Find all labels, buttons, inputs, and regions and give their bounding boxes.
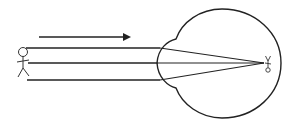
- stick-figure-object-icon: [17, 48, 29, 78]
- refracted-rays: [158, 48, 264, 80]
- incoming-rays: [26, 48, 160, 80]
- inverted-image-icon: [265, 56, 271, 72]
- eye-optics-diagram: [0, 0, 292, 124]
